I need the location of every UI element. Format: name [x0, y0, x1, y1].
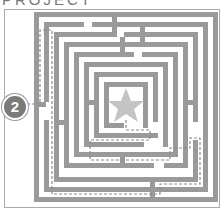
maze-wall: [163, 62, 168, 147]
maze-wall: [120, 157, 125, 167]
maze-wall: [188, 100, 198, 105]
maze-wall: [203, 22, 208, 192]
maze-wall: [64, 42, 69, 168]
maze-wall: [104, 82, 109, 128]
maze-wall: [84, 62, 89, 142]
maze-wall: [84, 142, 144, 147]
puzzle-number-badge: 2: [2, 94, 28, 120]
maze-wall: [213, 12, 218, 202]
maze-wall: [193, 140, 198, 182]
maze-wall: [143, 82, 148, 128]
maze-wall: [54, 32, 114, 37]
maze-wall: [74, 52, 79, 152]
maze-wall: [124, 32, 198, 37]
maze-wall: [120, 37, 125, 57]
maze-wall: [59, 120, 69, 125]
maze-wall: [34, 12, 218, 17]
maze-wall: [193, 32, 198, 122]
maze-wall: [64, 163, 154, 168]
maze-wall: [89, 100, 99, 105]
maze-wall: [54, 32, 59, 178]
maze-wall: [44, 22, 49, 102]
maze-wall: [84, 62, 168, 67]
goal-star-icon: [108, 88, 144, 122]
maze-wall: [44, 120, 49, 192]
maze-wall: [104, 82, 148, 87]
maze-wall: [94, 72, 158, 77]
maze-wall: [44, 22, 84, 27]
maze-wall: [150, 182, 155, 197]
maze-wall: [183, 42, 188, 168]
maze-wall: [140, 27, 145, 47]
maze-wall: [54, 177, 198, 182]
maze-wall: [173, 52, 178, 157]
maze-wall: [153, 72, 158, 122]
maze-wall: [104, 123, 124, 128]
maze-wall: [34, 197, 218, 202]
maze-wall: [94, 133, 158, 138]
maze-wall: [112, 17, 117, 37]
maze-wall: [44, 187, 208, 192]
maze-wall: [64, 42, 188, 47]
maze-wall: [142, 52, 178, 57]
maze[interactable]: [0, 0, 221, 210]
maze-wall: [92, 22, 208, 27]
